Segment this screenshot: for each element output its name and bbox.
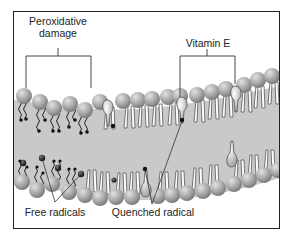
label-peroxidative-damage: Peroxidative damage bbox=[22, 15, 94, 39]
peroxidative-bracket bbox=[26, 48, 91, 88]
label-quenched-radical: Quenched radical bbox=[110, 206, 196, 218]
label-vitamin-e: Vitamin E bbox=[180, 37, 236, 49]
label-free-radicals: Free radicals bbox=[22, 206, 88, 218]
